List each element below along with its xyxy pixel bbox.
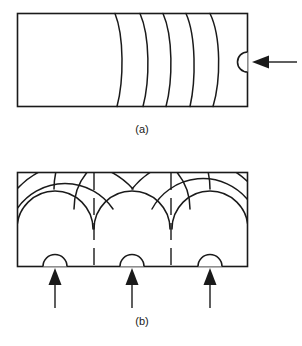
panel-b-source-arrow-1-head [49,268,62,285]
panel-b-source-arrow-3 [204,268,217,308]
figure-root: (a) [0,0,302,346]
panel-b: (b) [17,111,248,327]
panel-b-source-arrow-1 [49,268,62,308]
panel-b-caption: (b) [135,315,148,327]
panel-a-incident-arrow-head [252,56,269,69]
panel-b-arrow-group [49,268,217,308]
panel-a: (a) [18,14,298,136]
panel-b-source-arrow-2-head [126,268,139,285]
panel-a-caption: (a) [135,123,148,135]
panel-b-source-arrow-3-head [204,268,217,285]
wavefront-diagram: (a) [0,0,302,346]
panel-b-source-arrow-2 [126,268,139,308]
panel-a-boundary-box [18,14,248,107]
panel-b-boundary-box [18,173,248,267]
panel-a-incident-arrow [252,56,297,69]
